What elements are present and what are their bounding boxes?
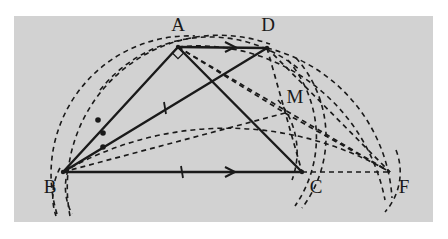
- tick-BD: [164, 102, 166, 114]
- arc-D-to-F: [267, 48, 392, 198]
- segment-AD: [178, 47, 267, 48]
- vertex-label-A: A: [171, 14, 185, 35]
- solid-segments: [63, 47, 302, 172]
- vertex-point-D: [265, 46, 269, 50]
- tick-BC: [181, 166, 183, 178]
- segment-marks: [164, 42, 235, 178]
- arc-radius-BA-large: [51, 36, 195, 214]
- arc-BF-outer: [63, 128, 390, 172]
- segment-AB: [63, 47, 178, 172]
- vertex-label-M: M: [287, 86, 304, 107]
- construction-arcs: [51, 35, 400, 216]
- arc-B-down-2: [65, 170, 72, 214]
- diagram-canvas: ABCDMF: [0, 0, 448, 239]
- angle-dot-2: [100, 130, 106, 136]
- angle-dot-3: [100, 144, 106, 150]
- vertex-label-D: D: [261, 14, 275, 35]
- arc-M-sweep: [178, 46, 385, 200]
- vertex-label-B: B: [44, 176, 57, 197]
- vertex-label-F: F: [399, 176, 410, 197]
- vertex-point-A: [176, 45, 180, 49]
- vertex-point-B: [61, 170, 65, 174]
- geometry-figure: ABCDMF: [0, 0, 448, 239]
- angle-dot-1: [95, 117, 101, 123]
- vertex-label-C: C: [310, 176, 323, 197]
- vertex-point-C: [300, 170, 304, 174]
